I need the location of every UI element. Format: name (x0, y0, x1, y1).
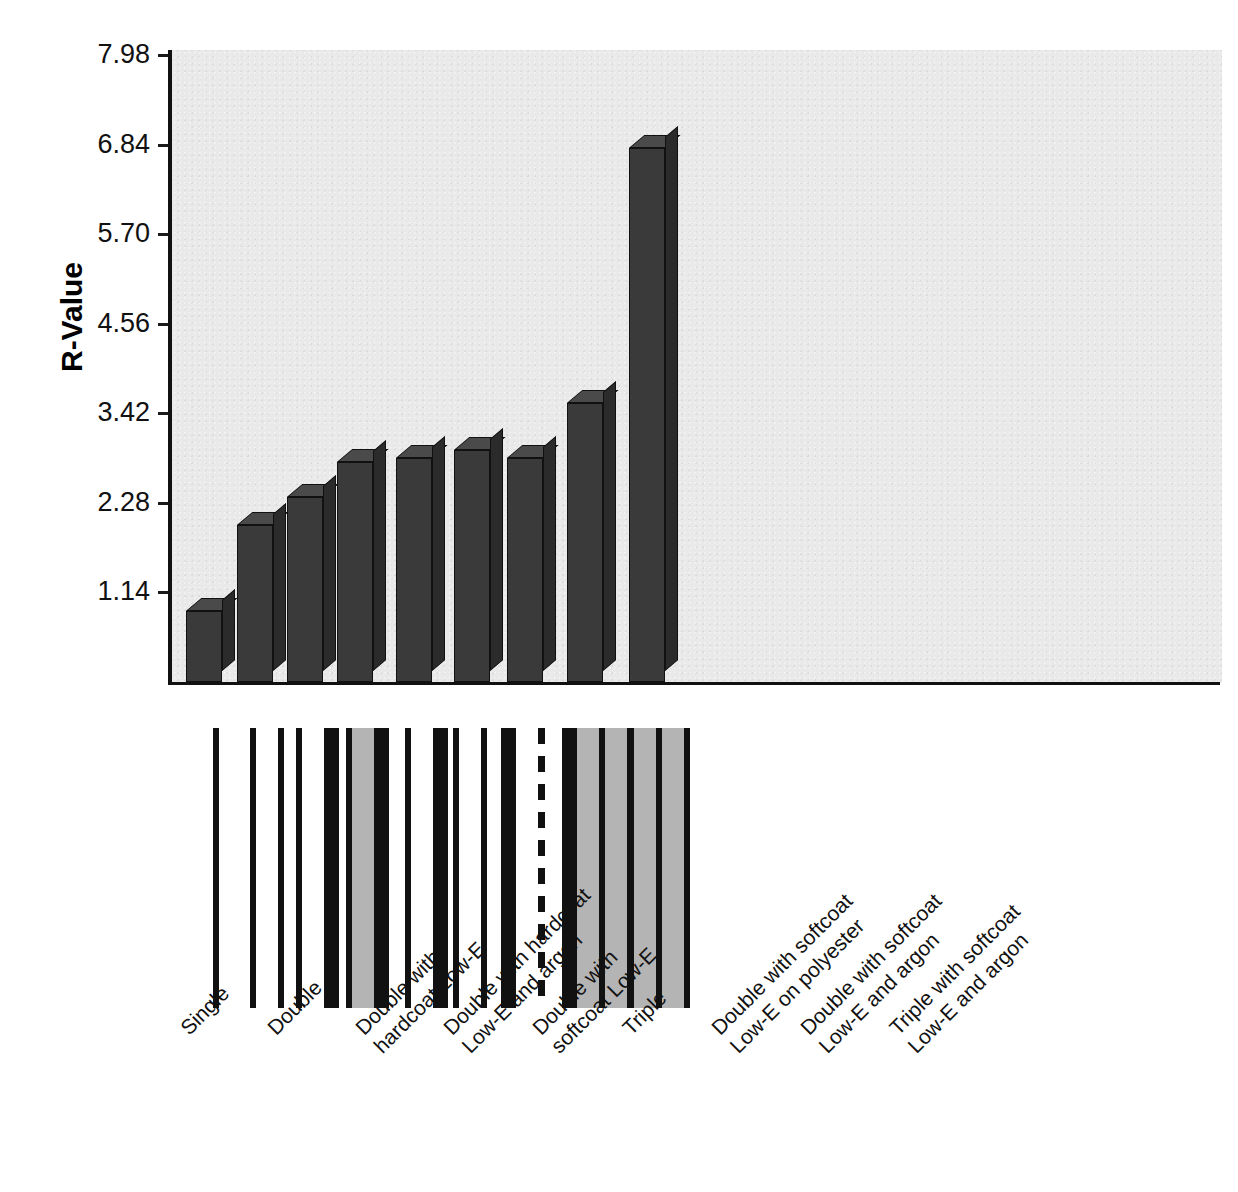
bar-side-face (323, 475, 336, 671)
y-axis-tick-label: 6.84 (38, 131, 150, 158)
bar-front-face (337, 462, 373, 682)
glazing-diagram-single (213, 728, 219, 1008)
bar-front-face (186, 611, 222, 682)
glazing-diagram-double (250, 728, 284, 1008)
bar (186, 611, 222, 682)
bar (396, 458, 432, 682)
bar-front-face (287, 497, 323, 682)
bar-front-face (629, 148, 665, 682)
bar-front-face (507, 458, 543, 682)
glass-pane (684, 728, 690, 1008)
bar (337, 462, 373, 682)
lowe-coated-pane (374, 728, 389, 1008)
bar-front-face (237, 525, 273, 682)
bar-side-face (603, 381, 616, 671)
bar-side-face (490, 428, 503, 671)
y-axis-tick-label: 1.14 (38, 578, 150, 605)
argon-gap (662, 728, 684, 1008)
lowe-coated-pane (324, 728, 339, 1008)
plot-area (168, 50, 1222, 683)
x-axis-category-label: Single (175, 981, 235, 1041)
glass-pane (278, 728, 284, 1008)
y-axis-tick-label: 3.42 (38, 399, 150, 426)
y-axis-tick-label: 7.98 (38, 41, 150, 68)
bar (629, 148, 665, 682)
bar (454, 450, 490, 682)
glass-pane (213, 728, 219, 1008)
y-axis-tick-label: 5.70 (38, 220, 150, 247)
bar (237, 525, 273, 682)
glazing-diagram-double-hardcoat-lowe (296, 728, 339, 1008)
chart-root: R-Value 7.986.845.704.563.422.281.14 Sin… (0, 0, 1238, 1192)
bar (567, 403, 603, 682)
bar (507, 458, 543, 682)
bar-side-face (373, 440, 386, 671)
bar-front-face (567, 403, 603, 682)
bar-side-face (222, 589, 235, 671)
glazing-diagram-double-hardcoat-lowe-argon (346, 728, 389, 1008)
y-axis-tick-label: 2.28 (38, 489, 150, 516)
bar-front-face (454, 450, 490, 682)
argon-gap (352, 728, 374, 1008)
bar (287, 497, 323, 682)
bar-side-face (665, 126, 678, 671)
bar-side-face (543, 436, 556, 671)
y-axis-tick-label: 4.56 (38, 310, 150, 337)
x-axis-baseline (168, 682, 1220, 685)
air-gap (256, 728, 278, 1008)
bar-side-face (273, 503, 286, 671)
air-gap (302, 728, 324, 1008)
bar-front-face (396, 458, 432, 682)
bar-side-face (432, 436, 445, 671)
